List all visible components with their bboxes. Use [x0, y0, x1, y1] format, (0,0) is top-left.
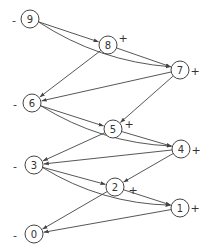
node-label: 9	[27, 14, 33, 25]
plus-sign-label: +	[191, 144, 200, 157]
minus-sign-label: -	[13, 160, 17, 173]
node-9: 9-	[12, 10, 39, 28]
node-6: 6-	[13, 94, 41, 112]
node-label: 6	[29, 98, 35, 109]
plus-sign-label: +	[118, 32, 127, 45]
plus-sign-label: +	[128, 184, 137, 197]
node-label: 8	[105, 40, 111, 51]
node-2: 2+	[106, 178, 138, 197]
plus-sign-label: +	[190, 202, 199, 215]
node-4: 4+	[172, 140, 201, 158]
plus-sign-label: +	[124, 118, 133, 131]
edge-3-to-2	[43, 167, 106, 184]
minus-sign-label: -	[13, 229, 17, 242]
edge-7-to-6	[42, 72, 171, 101]
node-label: 4	[178, 144, 184, 155]
plus-sign-label: +	[190, 65, 199, 78]
directed-graph: 9-8+7+6-5+4+3-2+1+0-	[0, 0, 212, 247]
node-label: 7	[177, 65, 183, 76]
edge-7-to-5	[121, 76, 174, 122]
node-5: 5+	[104, 118, 134, 139]
node-0: 0-	[13, 225, 43, 243]
edge-1-to-0	[44, 210, 171, 233]
nodes-layer: 9-8+7+6-5+4+3-2+1+0-	[12, 10, 201, 243]
node-label: 0	[31, 229, 37, 240]
node-3: 3-	[13, 156, 43, 174]
minus-sign-label: -	[13, 98, 17, 111]
node-label: 3	[31, 160, 37, 171]
node-1: 1+	[171, 199, 200, 217]
minus-sign-label: -	[12, 14, 16, 27]
node-7: 7+	[171, 61, 200, 79]
edge-2-to-0	[43, 192, 108, 229]
edge-5-to-3	[43, 133, 105, 161]
node-label: 5	[110, 124, 116, 135]
node-label: 1	[177, 203, 183, 214]
node-label: 2	[112, 182, 118, 193]
edge-4-to-2	[124, 153, 174, 182]
